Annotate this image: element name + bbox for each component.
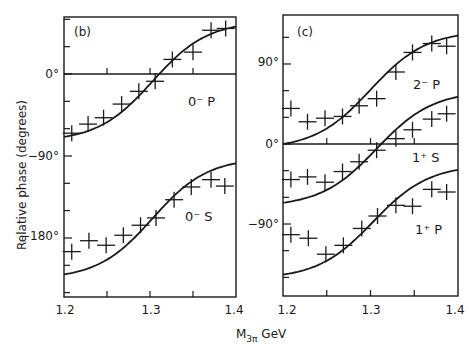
panel-b-xtick-1.2: 1.2 (55, 303, 74, 317)
series-label-1plus-p: 1⁺ P (415, 222, 442, 237)
series-label-0minus-p: 0⁻ P (188, 94, 215, 109)
x-axis-title: M3π GeV (236, 327, 287, 344)
panel-b-ytick-0: 0° (45, 67, 59, 81)
panel-c-xtick-1.4: 1.4 (445, 303, 464, 317)
panel-b-xtick-1.4: 1.4 (224, 303, 243, 317)
y-axis-title: Relative phase (degrees) (15, 100, 29, 250)
panel-b-xtick-1.3: 1.3 (141, 303, 160, 317)
panel-c-label: (c) (297, 25, 313, 39)
phase-figure: (b) (c) 0° −90° −180° 90° 0° −90° 1.2 1.… (0, 0, 469, 356)
panel-c-ytick-90: 90° (258, 55, 279, 69)
panel-c-ytick-0: 0° (265, 137, 279, 151)
series-label-0minus-s: 0⁻ S (185, 209, 213, 224)
panel-b-label: (b) (74, 25, 91, 39)
series-label-1plus-s: 1⁺ S (412, 150, 440, 165)
panel-c-ytick-m90: −90° (248, 217, 279, 231)
x-axis-title-unit: GeV (258, 327, 287, 341)
panel-c (282, 36, 458, 297)
panel-b-frame (64, 17, 236, 297)
panel-c-xtick-1.3: 1.3 (361, 303, 380, 317)
panel-b-ytick-m90: −90° (28, 149, 59, 163)
x-axis-title-sub: 3π (246, 334, 258, 344)
panel-b (63, 19, 236, 297)
series-label-2minus-p: 2⁻ P (413, 77, 440, 92)
x-axis-title-main: M (236, 327, 246, 341)
panel-c-xtick-1.2: 1.2 (277, 303, 296, 317)
